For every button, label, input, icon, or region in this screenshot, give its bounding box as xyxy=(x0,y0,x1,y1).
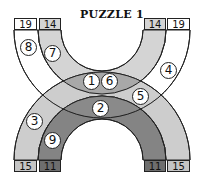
end-box-top-right-inner: 14 xyxy=(144,18,166,30)
end-box-top-right-outer: 19 xyxy=(167,18,190,30)
puzzle-board: PUZZLE 1 19 14 14 19 15 11 11 15 1 6 2 3… xyxy=(0,0,205,181)
cell-9[interactable]: 9 xyxy=(44,132,61,149)
cell-1[interactable]: 1 xyxy=(83,73,100,90)
cell-4[interactable]: 4 xyxy=(160,62,177,79)
cell-6[interactable]: 6 xyxy=(101,73,118,90)
cell-7[interactable]: 7 xyxy=(44,45,61,62)
end-box-top-left-outer: 19 xyxy=(14,18,37,30)
puzzle-title: PUZZLE 1 xyxy=(72,8,152,21)
end-box-top-left-inner: 14 xyxy=(39,18,61,30)
cell-3[interactable]: 3 xyxy=(26,113,43,130)
cell-8[interactable]: 8 xyxy=(20,39,37,56)
cell-5[interactable]: 5 xyxy=(132,88,149,105)
cell-2[interactable]: 2 xyxy=(92,100,109,117)
end-box-bottom-right-outer: 15 xyxy=(167,160,190,172)
end-box-bottom-left-outer: 15 xyxy=(14,160,37,172)
end-box-bottom-right-inner: 11 xyxy=(144,160,166,172)
end-box-bottom-left-inner: 11 xyxy=(39,160,61,172)
